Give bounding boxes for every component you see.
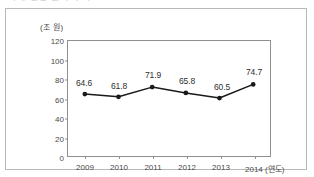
cut-off-caption-text: 가계 신용 잔액 추이	[8, 0, 91, 3]
x-axis-tick-mark	[153, 156, 154, 159]
x-axis-tick-label: 2014 (연도)	[245, 163, 284, 174]
data-point-value-label: 64.6	[76, 78, 92, 88]
x-axis-tick-label: 2010	[110, 163, 128, 172]
y-axis-tick-label: 20	[55, 134, 64, 143]
data-point-marker	[82, 92, 87, 97]
data-point-value-label: 74.7	[246, 67, 262, 77]
y-axis-tick-mark	[65, 119, 68, 120]
y-axis-unit-label: (조 원)	[40, 21, 64, 32]
x-axis-tick-label: 2013	[212, 163, 230, 172]
plot-area: 020406080100120200920102011201220132014 …	[67, 40, 271, 157]
y-axis-tick-mark	[65, 60, 68, 61]
y-axis-tick-label: 40	[55, 115, 64, 124]
y-axis-tick-label: 80	[55, 76, 64, 85]
x-axis-tick-label: 2009	[76, 163, 94, 172]
data-point-value-label: 65.8	[179, 76, 195, 86]
line-series-svg	[68, 41, 270, 156]
data-point-value-label: 60.5	[214, 82, 230, 92]
data-point-marker	[251, 82, 256, 87]
y-axis-tick-mark	[65, 138, 68, 139]
cut-off-caption-strip: 가계 신용 잔액 추이	[8, 0, 158, 5]
y-axis-tick-label: 60	[55, 95, 64, 104]
x-axis-tick-label: 2012	[178, 163, 196, 172]
x-axis-tick-mark	[221, 156, 222, 159]
data-point-value-label: 71.9	[145, 70, 161, 80]
y-axis-tick-label: 100	[51, 56, 64, 65]
y-axis-tick-label: 0	[60, 154, 64, 163]
data-point-marker	[183, 91, 188, 96]
data-point-value-label: 61.8	[111, 81, 127, 91]
x-axis-tick-mark	[119, 156, 120, 159]
x-axis-tick-mark	[85, 156, 86, 159]
x-axis-tick-label: 2011	[144, 163, 161, 172]
x-axis-tick-mark	[187, 156, 188, 159]
data-point-marker	[116, 94, 121, 99]
y-axis-tick-mark	[65, 99, 68, 100]
y-axis-tick-label: 120	[51, 37, 64, 46]
x-axis-tick-mark	[255, 156, 256, 159]
y-axis-tick-mark	[65, 80, 68, 81]
chart-outer-frame: (조 원) 0204060801001202009201020112012201…	[5, 8, 307, 170]
data-point-marker	[150, 85, 155, 90]
data-point-marker	[217, 96, 222, 101]
